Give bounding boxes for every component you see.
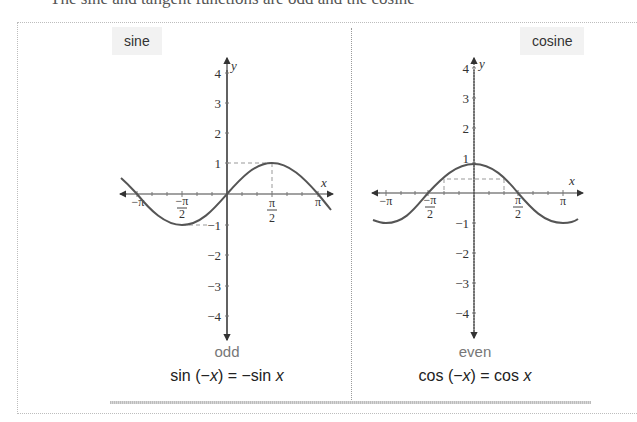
svg-text:2: 2 [515, 207, 521, 221]
sine-graph: 4321 −1−2−3−4 y x −π −π2 π2 π [120, 58, 333, 340]
identity-var: x [523, 367, 531, 384]
svg-text:2: 2 [427, 207, 433, 221]
svg-text:2: 2 [463, 121, 470, 136]
identity-text: ) = −sin [218, 367, 276, 384]
identity-var: x [463, 367, 471, 384]
svg-text:y: y [229, 58, 237, 73]
svg-text:x: x [320, 175, 327, 190]
svg-text:2: 2 [215, 126, 222, 141]
identity-text: sin (− [170, 367, 210, 384]
caption-underline [110, 401, 591, 404]
svg-text:3: 3 [463, 91, 470, 106]
cosine-identity: cos (−x) = cos x [355, 367, 595, 385]
svg-text:−π: −π [380, 194, 393, 208]
svg-text:−π: −π [176, 194, 189, 208]
cosine-graph: 4321 −1−2−3−4 y x −π −π2 π2 π [372, 56, 583, 338]
svg-text:4: 4 [215, 66, 222, 81]
identity-text: ) = cos [471, 367, 524, 384]
svg-text:4: 4 [463, 61, 470, 76]
identity-var: x [276, 367, 284, 384]
svg-text:−4: −4 [207, 309, 221, 324]
svg-text:−3: −3 [455, 276, 469, 291]
identity-var: x [210, 367, 218, 384]
svg-text:−4: −4 [455, 306, 469, 321]
svg-text:y: y [477, 56, 485, 71]
svg-text:−2: −2 [207, 248, 221, 263]
svg-text:π: π [560, 194, 566, 208]
identity-text: cos (− [419, 367, 463, 384]
svg-text:3: 3 [215, 96, 222, 111]
svg-text:2: 2 [179, 207, 185, 221]
svg-text:−3: −3 [207, 279, 221, 294]
svg-text:−2: −2 [455, 246, 469, 261]
sine-identity: sin (−x) = −sin x [107, 367, 347, 385]
svg-text:π: π [269, 196, 275, 210]
cosine-parity: even [355, 343, 595, 360]
svg-text:x: x [568, 173, 575, 188]
svg-text:−1: −1 [207, 218, 221, 233]
sine-parity: odd [107, 343, 347, 360]
svg-text:1: 1 [215, 156, 222, 171]
svg-text:2: 2 [269, 211, 275, 225]
svg-text:−1: −1 [455, 216, 469, 231]
